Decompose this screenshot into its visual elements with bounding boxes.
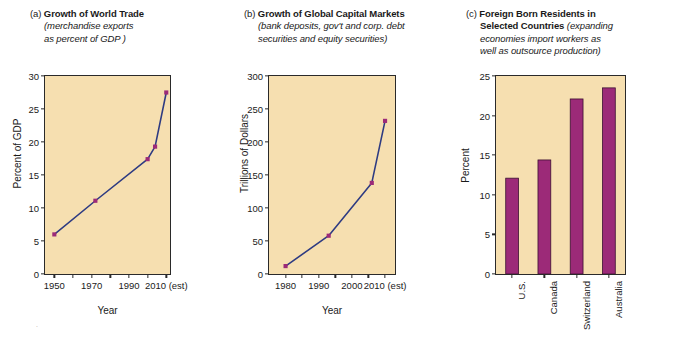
data-point-marker [164, 90, 168, 94]
x-tick-mark [544, 274, 545, 278]
panel-b-data-markers [284, 119, 388, 268]
bar [602, 88, 615, 274]
y-tick-label: 20 [28, 136, 39, 147]
figure-container: (a) Growth of World Trade (merchandise e… [0, 0, 676, 346]
panel-c-letter: (c) [466, 8, 477, 19]
x-tick-mark [128, 274, 129, 278]
x-tick-mark [147, 274, 148, 278]
y-tick-mark [492, 194, 496, 195]
panel-b-subtitle-1: (bank deposits, gov't and corp. debt [244, 20, 456, 32]
y-tick-mark [41, 240, 45, 241]
y-tick-mark [265, 240, 269, 241]
category-label: Australia [613, 281, 624, 318]
x-tick-mark [285, 274, 286, 278]
panel-a-title-main: Growth of World Trade [44, 8, 144, 19]
y-tick-mark [265, 174, 269, 175]
y-tick-label: 25 [28, 103, 39, 114]
panel-c-subtitle-2: (expanding [567, 20, 613, 31]
y-tick-mark [41, 174, 45, 175]
x-tick-mark [351, 274, 352, 278]
x-tick-label: 2010 (est) [145, 280, 188, 291]
y-tick-label: 0 [258, 269, 263, 280]
x-tick-label: 2010 (est) [364, 280, 407, 291]
x-tick-mark [511, 274, 512, 278]
y-tick-label: 30 [28, 71, 39, 82]
panel-c-subtitle-4: well as outsource production) [466, 45, 674, 57]
panel-a-world-trade: (a) Growth of World Trade (merchandise e… [0, 0, 226, 346]
y-tick-mark [492, 273, 496, 274]
category-label: Canada [548, 281, 559, 314]
y-tick-label: 0 [485, 269, 490, 280]
panel-c-bars-svg [496, 76, 625, 274]
panel-b-title: (b) Growth of Global Capital Markets (ba… [244, 8, 456, 45]
panel-b-title-main: Growth of Global Capital Markets [258, 8, 405, 19]
panel-c-subtitle-3: economies import workers as [466, 33, 674, 45]
panel-a-data-markers [52, 90, 168, 236]
bar [538, 160, 551, 274]
y-tick-label: 300 [247, 71, 263, 82]
panel-a-plot-area: 051015202530 1950197019902010 (est) [44, 75, 171, 275]
panel-c-title: (c) Foreign Born Residents in Selected C… [466, 8, 674, 58]
panel-a-trend-line [54, 93, 166, 235]
data-point-marker [52, 232, 56, 236]
x-tick-mark [384, 274, 385, 278]
panel-b-subtitle-2: securities and equity securities) [244, 33, 456, 45]
x-tick-mark [608, 274, 609, 278]
y-tick-label: 10 [28, 202, 39, 213]
panel-a-subtitle-1: (merchandise exports [30, 20, 220, 32]
x-tick-label: 1980 [275, 280, 296, 291]
data-point-marker [93, 199, 97, 203]
data-point-marker [146, 157, 150, 161]
panel-c-y-axis-label: Percent [460, 136, 471, 196]
data-point-marker [383, 119, 387, 123]
data-point-marker [370, 181, 374, 185]
y-tick-mark [265, 207, 269, 208]
y-tick-label: 25 [479, 71, 490, 82]
y-tick-mark [41, 273, 45, 274]
y-tick-mark [41, 207, 45, 208]
y-tick-label: 20 [479, 110, 490, 121]
data-point-marker [284, 264, 288, 268]
y-tick-mark [41, 141, 45, 142]
category-label: Switzerland [581, 281, 592, 330]
y-tick-label: 250 [247, 103, 263, 114]
y-tick-mark [492, 155, 496, 156]
y-tick-mark [265, 141, 269, 142]
y-tick-label: 5 [34, 236, 39, 247]
x-tick-mark [368, 274, 369, 278]
y-tick-label: 10 [479, 189, 490, 200]
y-tick-label: 100 [247, 202, 263, 213]
panel-c-foreign-born: (c) Foreign Born Residents in Selected C… [452, 0, 676, 346]
panel-a-title: (a) Growth of World Trade (merchandise e… [30, 8, 220, 45]
x-tick-mark [72, 274, 73, 278]
panel-b-trend-line [286, 121, 385, 266]
panel-a-letter: (a) [30, 8, 41, 19]
stray-speck: . [36, 321, 38, 328]
panel-a-y-axis-label: Percent of GDP [12, 104, 23, 204]
y-tick-label: 0 [34, 269, 39, 280]
panel-b-capital-markets: (b) Growth of Global Capital Markets (ba… [226, 0, 452, 346]
y-tick-mark [265, 75, 269, 76]
panel-c-bar-group [506, 88, 616, 274]
y-tick-mark [41, 75, 45, 76]
x-tick-mark [54, 274, 55, 278]
x-tick-mark [318, 274, 319, 278]
x-tick-mark [110, 274, 111, 278]
y-tick-mark [492, 115, 496, 116]
y-tick-mark [492, 234, 496, 235]
y-tick-mark [265, 273, 269, 274]
panel-b-series-svg [269, 76, 395, 274]
panel-a-x-axis-label: Year [44, 305, 171, 316]
x-tick-mark [302, 274, 303, 278]
y-tick-label: 15 [28, 170, 39, 181]
category-label: U.S. [516, 281, 527, 299]
y-tick-mark [492, 75, 496, 76]
y-tick-label: 50 [252, 236, 263, 247]
x-tick-label: 2000 [341, 280, 362, 291]
panel-c-title-main-1: Foreign Born Residents in [479, 8, 595, 19]
x-tick-label: 1970 [81, 280, 102, 291]
y-tick-label: 5 [485, 229, 490, 240]
panel-b-y-axis-label: Trillions of Dollars [239, 99, 250, 209]
y-tick-mark [265, 108, 269, 109]
bar [570, 99, 583, 274]
